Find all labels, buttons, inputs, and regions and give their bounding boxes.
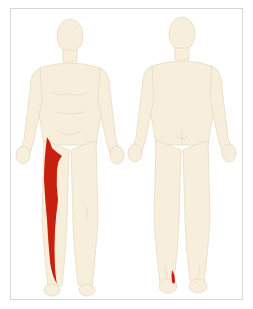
body-chart	[0, 0, 253, 309]
posterior-figure	[128, 17, 236, 293]
anterior-figure	[16, 19, 124, 296]
